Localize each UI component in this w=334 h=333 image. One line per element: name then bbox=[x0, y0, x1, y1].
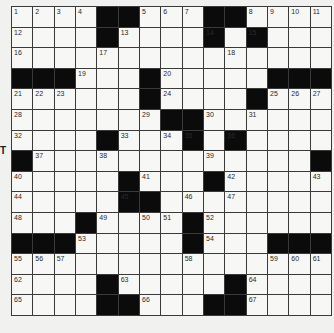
letter-cell[interactable]: 46 bbox=[183, 192, 203, 212]
letter-cell[interactable]: 43 bbox=[311, 172, 331, 192]
letter-cell[interactable] bbox=[119, 254, 139, 274]
letter-cell[interactable] bbox=[140, 48, 160, 68]
letter-cell[interactable] bbox=[289, 213, 309, 233]
letter-cell[interactable]: 50 bbox=[140, 213, 160, 233]
letter-cell[interactable] bbox=[268, 131, 288, 151]
letter-cell[interactable]: 56 bbox=[33, 254, 53, 274]
letter-cell[interactable] bbox=[140, 234, 160, 254]
letter-cell[interactable]: 34 bbox=[161, 131, 181, 151]
letter-cell[interactable] bbox=[311, 192, 331, 212]
letter-cell[interactable] bbox=[140, 275, 160, 295]
letter-cell[interactable]: 13 bbox=[119, 28, 139, 48]
letter-cell[interactable] bbox=[140, 131, 160, 151]
letter-cell[interactable] bbox=[119, 48, 139, 68]
letter-cell[interactable] bbox=[183, 172, 203, 192]
letter-cell[interactable]: 26 bbox=[289, 89, 309, 109]
letter-cell[interactable]: 51 bbox=[161, 213, 181, 233]
letter-cell[interactable] bbox=[268, 48, 288, 68]
letter-cell[interactable]: 30 bbox=[204, 110, 224, 130]
letter-cell[interactable] bbox=[247, 48, 267, 68]
letter-cell[interactable]: 32 bbox=[12, 131, 32, 151]
letter-cell[interactable] bbox=[225, 234, 245, 254]
letter-cell[interactable]: 48 bbox=[12, 213, 32, 233]
letter-cell[interactable]: 42 bbox=[225, 172, 245, 192]
letter-cell[interactable]: 44 bbox=[12, 192, 32, 212]
letter-cell[interactable] bbox=[161, 234, 181, 254]
letter-cell[interactable]: 19 bbox=[76, 69, 96, 89]
letter-cell[interactable]: 54 bbox=[204, 234, 224, 254]
letter-cell[interactable] bbox=[161, 151, 181, 171]
letter-cell[interactable] bbox=[97, 234, 117, 254]
letter-cell[interactable]: 11 bbox=[311, 7, 331, 27]
letter-cell[interactable] bbox=[289, 275, 309, 295]
letter-cell[interactable]: 22 bbox=[33, 89, 53, 109]
letter-cell[interactable] bbox=[55, 192, 75, 212]
letter-cell[interactable] bbox=[119, 234, 139, 254]
letter-cell[interactable] bbox=[55, 110, 75, 130]
letter-cell[interactable] bbox=[225, 213, 245, 233]
letter-cell[interactable] bbox=[55, 213, 75, 233]
letter-cell[interactable] bbox=[247, 192, 267, 212]
letter-cell[interactable]: 31 bbox=[247, 110, 267, 130]
letter-cell[interactable]: 25 bbox=[268, 89, 288, 109]
letter-cell[interactable] bbox=[55, 275, 75, 295]
letter-cell[interactable] bbox=[204, 275, 224, 295]
letter-cell[interactable]: 65 bbox=[12, 295, 32, 315]
letter-cell[interactable]: 6 bbox=[161, 7, 181, 27]
letter-cell[interactable] bbox=[76, 151, 96, 171]
letter-cell[interactable] bbox=[55, 48, 75, 68]
letter-cell[interactable]: 12 bbox=[12, 28, 32, 48]
letter-cell[interactable]: 9 bbox=[268, 7, 288, 27]
letter-cell[interactable]: 5 bbox=[140, 7, 160, 27]
letter-cell[interactable] bbox=[204, 192, 224, 212]
letter-cell[interactable]: 66 bbox=[140, 295, 160, 315]
letter-cell[interactable] bbox=[183, 69, 203, 89]
letter-cell[interactable]: 16 bbox=[12, 48, 32, 68]
letter-cell[interactable] bbox=[161, 275, 181, 295]
letter-cell[interactable]: 21 bbox=[12, 89, 32, 109]
letter-cell[interactable] bbox=[225, 151, 245, 171]
letter-cell[interactable]: 1 bbox=[12, 7, 32, 27]
letter-cell[interactable] bbox=[76, 131, 96, 151]
letter-cell[interactable] bbox=[311, 110, 331, 130]
letter-cell[interactable] bbox=[225, 89, 245, 109]
letter-cell[interactable] bbox=[119, 89, 139, 109]
letter-cell[interactable] bbox=[76, 275, 96, 295]
letter-cell[interactable]: 63 bbox=[119, 275, 139, 295]
letter-cell[interactable]: 7 bbox=[183, 7, 203, 27]
letter-cell[interactable] bbox=[140, 254, 160, 274]
letter-cell[interactable] bbox=[268, 110, 288, 130]
letter-cell[interactable] bbox=[76, 254, 96, 274]
letter-cell[interactable]: 27 bbox=[311, 89, 331, 109]
letter-cell[interactable] bbox=[289, 172, 309, 192]
letter-cell[interactable] bbox=[247, 234, 267, 254]
letter-cell[interactable] bbox=[268, 295, 288, 315]
letter-cell[interactable] bbox=[183, 48, 203, 68]
letter-cell[interactable]: 18 bbox=[225, 48, 245, 68]
letter-cell[interactable] bbox=[225, 28, 245, 48]
letter-cell[interactable]: 2 bbox=[33, 7, 53, 27]
letter-cell[interactable] bbox=[247, 172, 267, 192]
letter-cell[interactable] bbox=[204, 89, 224, 109]
letter-cell[interactable] bbox=[204, 69, 224, 89]
letter-cell[interactable] bbox=[97, 254, 117, 274]
letter-cell[interactable]: 3 bbox=[55, 7, 75, 27]
letter-cell[interactable]: 8 bbox=[247, 7, 267, 27]
letter-cell[interactable] bbox=[311, 28, 331, 48]
letter-cell[interactable] bbox=[247, 131, 267, 151]
letter-cell[interactable] bbox=[268, 28, 288, 48]
letter-cell[interactable] bbox=[161, 28, 181, 48]
letter-cell[interactable]: 52 bbox=[204, 213, 224, 233]
letter-cell[interactable]: 20 bbox=[161, 69, 181, 89]
letter-cell[interactable] bbox=[33, 28, 53, 48]
letter-cell[interactable] bbox=[119, 110, 139, 130]
letter-cell[interactable] bbox=[55, 295, 75, 315]
letter-cell[interactable]: 10 bbox=[289, 7, 309, 27]
letter-cell[interactable] bbox=[119, 213, 139, 233]
letter-cell[interactable]: 62 bbox=[12, 275, 32, 295]
letter-cell[interactable]: 17 bbox=[97, 48, 117, 68]
letter-cell[interactable] bbox=[33, 192, 53, 212]
letter-cell[interactable] bbox=[247, 151, 267, 171]
letter-cell[interactable] bbox=[289, 151, 309, 171]
letter-cell[interactable] bbox=[76, 48, 96, 68]
